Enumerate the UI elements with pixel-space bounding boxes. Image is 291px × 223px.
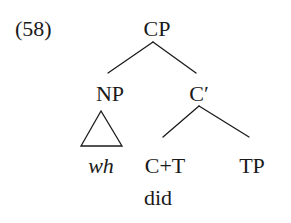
node-cp: CP <box>144 16 171 41</box>
example-number: (58) <box>15 16 52 41</box>
lexical-did: did <box>144 185 172 210</box>
node-c-t: C+T <box>145 153 186 178</box>
branch-cp-cbar <box>153 42 196 73</box>
syntax-tree: (58) CP NP C′ wh C+T TP did <box>0 0 291 223</box>
node-wh: wh <box>88 153 114 178</box>
branch-cbar-tp <box>199 106 249 137</box>
node-c-bar: C′ <box>189 81 209 106</box>
node-np: NP <box>96 81 124 106</box>
branch-cp-np <box>108 42 153 73</box>
branch-cbar-ct <box>163 106 199 137</box>
node-tp: TP <box>239 153 265 178</box>
np-triangle-icon <box>81 111 122 146</box>
